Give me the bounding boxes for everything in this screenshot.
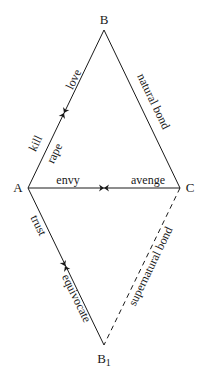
- edge-label-equivocate: equivocate: [59, 272, 94, 325]
- edge-a-b: [28, 30, 104, 188]
- meeting-arrows-ab-icon: [59, 107, 70, 119]
- vertex-label-a: A: [13, 180, 23, 195]
- edge-label-supernatural-bond: supernatural bond: [125, 224, 175, 308]
- vertex-label-c: C: [186, 180, 195, 195]
- meeting-arrows-ab1-icon: [60, 260, 71, 272]
- edge-label-trust: trust: [28, 213, 50, 239]
- edge-label-rape: rape: [44, 141, 66, 166]
- vertex-label-b1: B1: [97, 351, 111, 368]
- edge-label-natural-bond: natural bond: [134, 71, 173, 131]
- edge-label-avenge: avenge: [131, 173, 165, 187]
- edge-label-envy: envy: [56, 173, 79, 187]
- edge-a-b1: [28, 188, 104, 345]
- edge-b-c: [104, 30, 180, 188]
- edge-label-love: love: [63, 67, 85, 92]
- relationship-diagram: B A C B1 love kill rape natural bond env…: [0, 0, 209, 373]
- meeting-arrows-ac-icon: [99, 185, 109, 192]
- edge-label-kill: kill: [26, 132, 46, 153]
- vertex-label-b: B: [100, 12, 109, 27]
